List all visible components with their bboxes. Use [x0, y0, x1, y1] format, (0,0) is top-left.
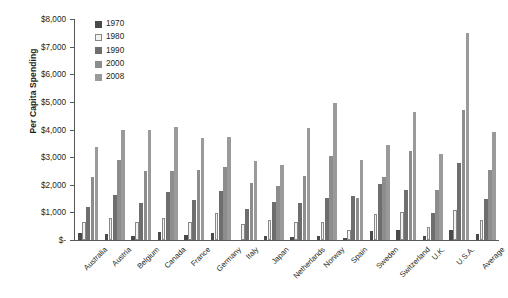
bar	[347, 230, 351, 240]
legend-swatch-icon	[95, 21, 102, 28]
bar	[378, 184, 382, 240]
bar	[144, 171, 148, 240]
bar	[95, 147, 99, 240]
bar	[272, 202, 276, 240]
bar-group	[234, 19, 261, 240]
bar	[78, 233, 82, 240]
bar	[166, 192, 170, 240]
bar	[374, 214, 378, 240]
bar	[409, 151, 413, 240]
bar	[197, 170, 201, 240]
x-axis-tick: Norway	[314, 241, 341, 298]
x-axis-tick: Canada	[155, 241, 182, 298]
bar	[343, 238, 347, 240]
bar	[435, 190, 439, 240]
bar	[135, 222, 139, 241]
bar	[396, 230, 400, 240]
x-axis-tick: U.K.	[420, 241, 447, 298]
y-axis-tick-label: $8,000	[41, 15, 66, 24]
bar	[466, 33, 470, 240]
bar	[162, 218, 166, 240]
legend-item: 2000	[95, 59, 124, 69]
bar	[117, 160, 121, 240]
bar	[241, 224, 245, 240]
y-axis-tick-label: $2,000	[41, 180, 66, 189]
legend-item: 1990	[95, 46, 124, 56]
bar	[404, 190, 408, 240]
bar	[356, 198, 360, 240]
x-axis-tick: France	[181, 241, 208, 298]
bar	[325, 198, 329, 240]
bar-group	[367, 19, 394, 240]
bar	[276, 186, 280, 240]
bar	[188, 222, 192, 240]
bar	[484, 199, 488, 240]
bar	[423, 236, 427, 240]
bar	[148, 130, 152, 241]
legend-item: 1980	[95, 32, 124, 42]
bar	[174, 127, 178, 240]
bar	[192, 200, 196, 240]
legend-swatch-icon	[95, 47, 102, 54]
bar	[453, 210, 457, 240]
x-axis-tick: Average	[473, 241, 500, 298]
bar	[476, 234, 480, 240]
bar	[427, 227, 431, 240]
y-axis-tick-label: $5,000	[41, 97, 66, 106]
y-axis-tick-label: $1,000	[41, 208, 66, 217]
bar	[294, 222, 298, 240]
x-axis-tick: Netherlands	[287, 241, 314, 298]
bar	[219, 191, 223, 240]
chart-container: Per Capita Spending $-$1,000$2,000$3,000…	[0, 0, 508, 298]
bar	[121, 130, 125, 240]
y-axis-tick-label: $3,000	[41, 153, 66, 162]
bar-group	[420, 19, 447, 240]
bar	[254, 161, 258, 240]
x-axis-tick-label: Average	[480, 245, 506, 271]
y-axis-tick-label: $6,000	[41, 70, 66, 79]
bar	[268, 220, 272, 240]
bar	[86, 207, 90, 240]
chart-legend: 19701980199020002008	[95, 19, 124, 83]
legend-item: 1970	[95, 19, 124, 29]
bar	[158, 232, 162, 240]
bar	[492, 132, 496, 240]
x-axis-tick-label: U.K.	[430, 245, 447, 262]
bar	[457, 163, 461, 240]
legend-swatch-icon	[95, 74, 102, 81]
x-axis-ticks: AustraliaAustriaBelgiumCanadaFranceGerma…	[75, 241, 499, 298]
y-axis-tick-label: $7,000	[41, 42, 66, 51]
bar	[431, 213, 435, 240]
bar	[131, 236, 135, 240]
y-axis-label: Per Capita Spending	[22, 0, 44, 240]
bar	[329, 156, 333, 240]
y-axis-tick-label: $-	[59, 236, 66, 245]
x-axis-tick: Germany	[208, 241, 235, 298]
bar-group	[261, 19, 288, 240]
x-axis-tick: U.S.A.	[446, 241, 473, 298]
bar	[333, 103, 337, 240]
bar	[201, 138, 205, 240]
x-axis-tick: Austria	[102, 241, 129, 298]
bar-group	[208, 19, 235, 240]
x-axis-tick: Sweden	[367, 241, 394, 298]
bar	[298, 203, 302, 240]
bar	[227, 137, 231, 240]
bar	[82, 222, 86, 240]
bar-group	[446, 19, 473, 240]
bar	[351, 196, 355, 240]
bar	[91, 177, 95, 240]
x-axis-tick: Australia	[75, 241, 102, 298]
legend-item: 2008	[95, 73, 124, 83]
bar	[223, 167, 227, 240]
bar-group	[155, 19, 182, 240]
bar-group	[473, 19, 500, 240]
bar-group	[314, 19, 341, 240]
legend-swatch-icon	[95, 61, 102, 68]
bar	[317, 236, 321, 240]
bar-group	[287, 19, 314, 240]
bar	[170, 171, 174, 240]
bar	[400, 212, 404, 240]
bar	[449, 230, 453, 240]
legend-label: 2000	[106, 60, 124, 68]
